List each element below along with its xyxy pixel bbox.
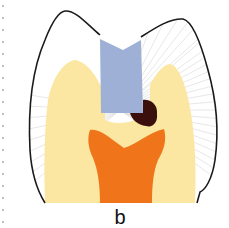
dotted-rule	[2, 5, 4, 223]
tooth-diagram	[0, 0, 229, 228]
filling	[100, 39, 143, 113]
figure-label: b	[110, 207, 130, 227]
